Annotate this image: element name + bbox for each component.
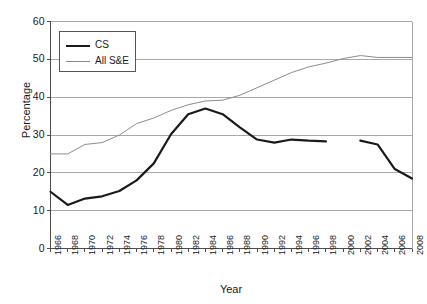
x-tick-label: 1988 xyxy=(243,234,252,254)
y-tick-label: 10 xyxy=(17,205,45,216)
x-tick-label: 1986 xyxy=(226,234,235,254)
x-tick-label: 1982 xyxy=(192,234,201,254)
legend-swatch-all-se-line-icon xyxy=(66,61,90,62)
x-tick-label: 1990 xyxy=(261,234,270,254)
x-tick-label: 1978 xyxy=(157,234,166,254)
x-tick-label: 2006 xyxy=(398,234,407,254)
x-tick-label: 2008 xyxy=(416,234,425,254)
data-series-group xyxy=(51,56,413,205)
x-tick-label: 1996 xyxy=(312,234,321,254)
legend: CS All S&E xyxy=(59,31,136,72)
x-tick-label: 1972 xyxy=(106,234,115,254)
legend-entry-cs: CS xyxy=(60,38,135,54)
y-tick-label: 30 xyxy=(17,129,45,140)
x-tick-label: 2000 xyxy=(347,234,356,254)
x-tick-label: 1970 xyxy=(88,234,97,254)
legend-swatch-cs-line-icon xyxy=(66,45,90,47)
y-tick-label: 20 xyxy=(17,167,45,178)
y-tick-label: 0 xyxy=(17,243,45,254)
x-tick-label: 2002 xyxy=(364,234,373,254)
x-tick-label: 1976 xyxy=(140,234,149,254)
x-tick-label: 1980 xyxy=(175,234,184,254)
x-tick-label: 1984 xyxy=(209,234,218,254)
x-tick-label: 2004 xyxy=(381,234,390,254)
legend-label-cs: CS xyxy=(95,39,109,50)
x-tick-label: 1998 xyxy=(329,234,338,254)
x-tick-label: 1992 xyxy=(278,234,287,254)
y-tick-label: 60 xyxy=(17,16,45,27)
x-axis-title: Year xyxy=(50,283,412,295)
x-tick-label: 1974 xyxy=(123,234,132,254)
x-tick-label: 1968 xyxy=(71,234,80,254)
legend-entry-all-se: All S&E xyxy=(60,54,135,70)
y-tick-label: 50 xyxy=(17,53,45,64)
legend-label-all-se: All S&E xyxy=(95,55,129,66)
x-tick-label: 1994 xyxy=(295,234,304,254)
y-tick-label: 40 xyxy=(17,91,45,102)
line-chart: Percentage Year 0102030405060 1966196819… xyxy=(0,0,427,304)
x-tick-label: 1966 xyxy=(54,234,63,254)
